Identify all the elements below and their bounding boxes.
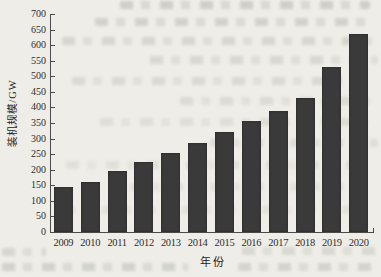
- x-axis-line: [50, 232, 374, 233]
- bar-2011: [108, 171, 127, 232]
- x-tick-label: 2020: [343, 237, 375, 249]
- y-tick-label: 150: [16, 180, 46, 190]
- x-axis-end-tick: [373, 228, 374, 232]
- y-tick-label: 600: [16, 40, 46, 50]
- y-tick-label: 700: [16, 9, 46, 19]
- bar-2015: [215, 132, 234, 232]
- y-tick-label: 100: [16, 196, 46, 206]
- y-tick-label: 400: [16, 102, 46, 112]
- y-tick-label: 550: [16, 56, 46, 66]
- y-tick-mark: [51, 123, 55, 124]
- y-tick-mark: [51, 139, 55, 140]
- y-tick-mark: [51, 61, 55, 62]
- y-tick-mark: [51, 92, 55, 93]
- y-tick-mark: [51, 170, 55, 171]
- bar-2012: [134, 162, 153, 232]
- bar-2010: [81, 182, 100, 232]
- bar-2019: [322, 67, 341, 232]
- bar-2013: [161, 153, 180, 232]
- bar-2017: [269, 111, 288, 232]
- y-tick-label: 0: [16, 227, 46, 237]
- bar-2020: [349, 34, 368, 232]
- y-tick-label: 450: [16, 87, 46, 97]
- y-tick-mark: [51, 154, 55, 155]
- y-tick-label: 650: [16, 25, 46, 35]
- y-tick-label: 250: [16, 149, 46, 159]
- bar-2009: [54, 187, 73, 232]
- y-tick-label: 50: [16, 211, 46, 221]
- y-tick-mark: [51, 14, 55, 15]
- y-tick-label: 300: [16, 134, 46, 144]
- bar-2014: [188, 143, 207, 232]
- y-tick-mark: [51, 232, 55, 233]
- y-tick-label: 200: [16, 165, 46, 175]
- y-tick-label: 350: [16, 118, 46, 128]
- x-axis-title: 年份: [200, 253, 226, 269]
- y-tick-mark: [51, 45, 55, 46]
- bar-2018: [296, 98, 315, 232]
- y-tick-mark: [51, 30, 55, 31]
- bar-chart-installed-capacity: 装机规模/GW 05010015020025030035040045050055…: [0, 0, 381, 277]
- bar-2016: [242, 121, 261, 232]
- y-tick-label: 500: [16, 71, 46, 81]
- y-tick-mark: [51, 107, 55, 108]
- y-tick-mark: [51, 76, 55, 77]
